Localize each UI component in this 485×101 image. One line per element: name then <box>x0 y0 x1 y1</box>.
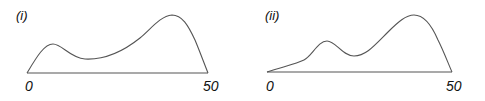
chart-ii <box>267 15 452 72</box>
x-tick-50-i: 50 <box>203 78 219 94</box>
curve-ii <box>267 15 452 72</box>
curve-i <box>27 15 208 73</box>
x-tick-50-ii: 50 <box>446 78 462 94</box>
charts-svg <box>0 0 485 101</box>
chart-i <box>27 15 208 73</box>
x-tick-0-i: 0 <box>25 78 33 94</box>
x-tick-0-ii: 0 <box>266 78 274 94</box>
